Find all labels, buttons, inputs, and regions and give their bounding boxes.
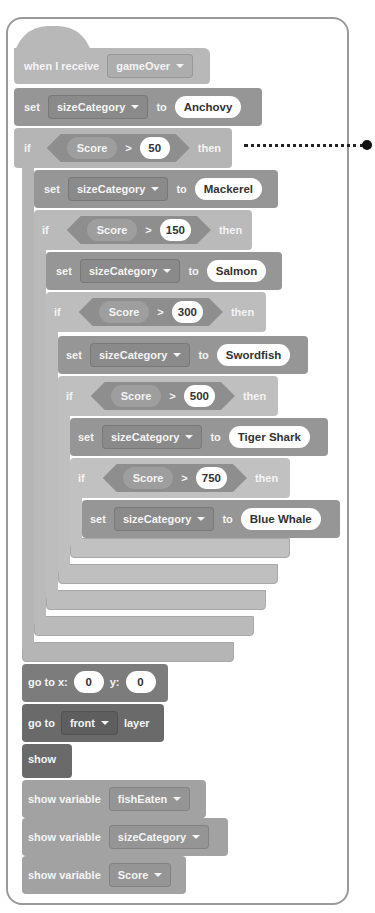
set-block-tiger-shark[interactable]: set sizeCategory to Tiger Shark bbox=[70, 418, 328, 456]
value-input[interactable]: Mackerel bbox=[195, 178, 262, 200]
chevron-down-icon bbox=[154, 873, 162, 877]
operator-symbol: > bbox=[157, 306, 163, 318]
if-2-tail bbox=[34, 616, 254, 636]
variable-dropdown[interactable]: sizeCategory bbox=[114, 507, 214, 531]
show-block[interactable]: show bbox=[22, 744, 72, 778]
message-value: gameOver bbox=[116, 60, 170, 72]
operator-symbol: > bbox=[181, 472, 187, 484]
go-to-layer-block[interactable]: go to front layer bbox=[22, 704, 164, 742]
variable-dropdown[interactable]: sizeCategory bbox=[68, 177, 168, 201]
value-input[interactable]: Blue Whale bbox=[241, 508, 321, 530]
show-variable-label: show variable bbox=[28, 793, 101, 805]
value-input[interactable]: Swordfish bbox=[217, 344, 291, 366]
if-block-3[interactable]: if Score > 300 then bbox=[46, 292, 266, 332]
message-dropdown[interactable]: gameOver bbox=[107, 54, 193, 78]
variable-dropdown[interactable]: fishEaten bbox=[109, 787, 191, 811]
score-reporter[interactable]: Score bbox=[67, 137, 118, 159]
variable-value: sizeCategory bbox=[111, 431, 179, 443]
variable-value: fishEaten bbox=[118, 793, 168, 805]
variable-dropdown[interactable]: sizeCategory bbox=[48, 95, 148, 119]
if-4-tail bbox=[58, 564, 278, 584]
if-1-tail bbox=[22, 642, 234, 662]
threshold-input[interactable]: 300 bbox=[172, 301, 203, 323]
callout-dot bbox=[362, 140, 372, 150]
chevron-down-icon bbox=[185, 435, 193, 439]
variable-value: sizeCategory bbox=[118, 831, 186, 843]
if-3-tail bbox=[46, 590, 266, 610]
threshold-input[interactable]: 50 bbox=[140, 137, 170, 159]
variable-dropdown[interactable]: sizeCategory bbox=[102, 425, 202, 449]
set-block-blue-whale[interactable]: set sizeCategory to Blue Whale bbox=[82, 500, 340, 538]
if-1-arm bbox=[22, 130, 34, 652]
chevron-down-icon bbox=[192, 835, 200, 839]
chevron-down-icon bbox=[131, 105, 139, 109]
show-variable-block-sizecategory[interactable]: show variable sizeCategory bbox=[22, 818, 228, 856]
if-label: if bbox=[24, 142, 31, 154]
if-block-1[interactable]: if Score > 50 then bbox=[14, 128, 232, 168]
set-block-mackerel[interactable]: set sizeCategory to Mackerel bbox=[34, 170, 278, 208]
show-variable-label: show variable bbox=[28, 869, 101, 881]
then-label: then bbox=[219, 224, 242, 236]
then-label: then bbox=[255, 472, 278, 484]
value-input[interactable]: Salmon bbox=[207, 260, 267, 282]
go-to-label: go to bbox=[28, 717, 55, 729]
variable-value: sizeCategory bbox=[89, 265, 157, 277]
set-label: set bbox=[56, 265, 72, 277]
chevron-down-icon bbox=[101, 721, 109, 725]
go-to-xy-block[interactable]: go to x: 0 y: 0 bbox=[22, 664, 168, 702]
set-label: set bbox=[90, 513, 106, 525]
variable-dropdown[interactable]: sizeCategory bbox=[109, 825, 209, 849]
callout-dotted-line bbox=[244, 144, 364, 147]
y-label: y: bbox=[110, 676, 120, 688]
greater-than-operator[interactable]: Score > 150 bbox=[67, 216, 211, 244]
show-label: show bbox=[28, 753, 56, 765]
score-reporter[interactable]: Score bbox=[99, 301, 150, 323]
operator-symbol: > bbox=[169, 390, 175, 402]
y-input[interactable]: 0 bbox=[126, 671, 156, 693]
if-block-2[interactable]: if Score > 150 then bbox=[34, 210, 252, 250]
chevron-down-icon bbox=[173, 353, 181, 357]
layer-value: front bbox=[70, 717, 95, 729]
greater-than-operator[interactable]: Score > 750 bbox=[103, 464, 247, 492]
if-label: if bbox=[54, 306, 61, 318]
value-input[interactable]: Anchovy bbox=[175, 96, 242, 118]
threshold-input[interactable]: 750 bbox=[196, 467, 227, 489]
threshold-input[interactable]: 150 bbox=[160, 219, 191, 241]
then-label: then bbox=[198, 142, 221, 154]
operator-symbol: > bbox=[125, 142, 131, 154]
then-label: then bbox=[243, 390, 266, 402]
go-to-x-label: go to x: bbox=[28, 676, 68, 688]
set-label: set bbox=[78, 431, 94, 443]
threshold-input[interactable]: 500 bbox=[184, 385, 215, 407]
x-input[interactable]: 0 bbox=[74, 671, 104, 693]
set-label: set bbox=[44, 183, 60, 195]
if-block-4[interactable]: if Score > 500 then bbox=[58, 376, 278, 416]
greater-than-operator[interactable]: Score > 50 bbox=[47, 134, 190, 162]
chevron-down-icon bbox=[173, 797, 181, 801]
score-reporter[interactable]: Score bbox=[123, 467, 174, 489]
greater-than-operator[interactable]: Score > 500 bbox=[91, 382, 235, 410]
set-block-swordfish[interactable]: set sizeCategory to Swordfish bbox=[58, 336, 308, 374]
if-block-5[interactable]: if Score > 750 then bbox=[70, 458, 290, 498]
value-input[interactable]: Tiger Shark bbox=[229, 426, 310, 448]
variable-value: sizeCategory bbox=[77, 183, 145, 195]
variable-dropdown[interactable]: sizeCategory bbox=[90, 343, 190, 367]
to-label: to bbox=[156, 101, 166, 113]
variable-value: sizeCategory bbox=[99, 349, 167, 361]
set-block-anchovy[interactable]: set sizeCategory to Anchovy bbox=[14, 88, 262, 126]
show-variable-block-score[interactable]: show variable Score bbox=[22, 856, 186, 894]
set-block-salmon[interactable]: set sizeCategory to Salmon bbox=[46, 252, 282, 290]
variable-dropdown[interactable]: Score bbox=[109, 863, 172, 887]
layer-dropdown[interactable]: front bbox=[61, 711, 118, 735]
show-variable-block-fisheaten[interactable]: show variable fishEaten bbox=[22, 780, 206, 818]
if-label: if bbox=[78, 472, 85, 484]
variable-dropdown[interactable]: sizeCategory bbox=[80, 259, 180, 283]
variable-value: sizeCategory bbox=[57, 101, 125, 113]
score-reporter[interactable]: Score bbox=[111, 385, 162, 407]
when-i-receive-block[interactable]: when I receive gameOver bbox=[14, 48, 210, 84]
layer-label: layer bbox=[124, 717, 150, 729]
score-reporter[interactable]: Score bbox=[87, 219, 138, 241]
if-label: if bbox=[66, 390, 73, 402]
to-label: to bbox=[210, 431, 220, 443]
greater-than-operator[interactable]: Score > 300 bbox=[79, 298, 223, 326]
